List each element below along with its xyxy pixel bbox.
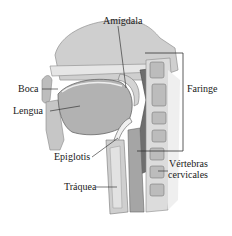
label-vertebras-line2: cervicales xyxy=(168,170,208,180)
label-lengua: Lengua xyxy=(13,106,43,116)
label-epiglotis: Epiglotis xyxy=(54,152,90,162)
label-traquea: Tráquea xyxy=(64,182,96,192)
label-boca: Boca xyxy=(18,84,39,94)
label-vertebras-line1: Vértebras xyxy=(169,159,208,169)
label-amigdala: Amígdala xyxy=(103,16,142,26)
label-faringe: Faringe xyxy=(187,84,218,94)
anatomy-illustration xyxy=(0,0,232,236)
neck-back xyxy=(168,70,180,210)
